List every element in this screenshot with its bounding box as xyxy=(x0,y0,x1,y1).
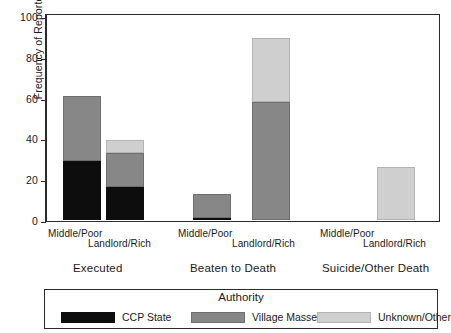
y-tick-label: 100 xyxy=(0,11,38,23)
legend: Authority CCP StateVillage Masses/PAUnkn… xyxy=(44,289,438,329)
legend-swatch-icon xyxy=(61,312,115,323)
bar-segment-light xyxy=(252,38,290,101)
bar xyxy=(252,38,290,220)
y-tick-label: 0 xyxy=(0,215,38,227)
legend-item: CCP State xyxy=(61,310,171,324)
group-label: Beaten to Death xyxy=(190,262,276,274)
y-tick-label: 40 xyxy=(0,133,38,145)
y-tick-label: 80 xyxy=(0,52,38,64)
bar xyxy=(377,167,415,220)
bar-segment-light xyxy=(377,167,415,220)
legend-item: Unknown/Other xyxy=(317,310,451,324)
bar-segment-mid xyxy=(252,102,290,220)
legend-swatch-icon xyxy=(191,312,245,323)
legend-swatch-icon xyxy=(317,312,371,323)
x-tick-label: Middle/Poor xyxy=(178,228,232,239)
legend-title: Authority xyxy=(45,291,437,303)
bar-segment-black xyxy=(106,187,144,220)
bar xyxy=(193,193,231,220)
legend-label: Unknown/Other xyxy=(378,311,451,323)
bars-container xyxy=(47,15,439,221)
legend-label: CCP State xyxy=(122,311,171,323)
bar xyxy=(63,96,101,220)
bar-segment-black xyxy=(63,161,101,220)
bar-segment-mid xyxy=(193,194,231,218)
bar-segment-mid xyxy=(106,153,144,188)
x-tick-label: Landlord/Rich xyxy=(88,238,151,249)
bar-segment-mid xyxy=(63,96,101,161)
y-tick-mark xyxy=(41,222,46,223)
x-tick-label: Landlord/Rich xyxy=(232,238,295,249)
group-label: Suicide/Other Death xyxy=(322,262,429,274)
y-tick-label: 20 xyxy=(0,174,38,186)
bar xyxy=(106,140,144,220)
bar-segment-light xyxy=(106,140,144,152)
x-tick-label: Landlord/Rich xyxy=(363,238,426,249)
bar-segment-black xyxy=(193,218,231,220)
y-axis-title-container: Frequency of Reported Deaths xyxy=(0,0,20,230)
y-tick-label: 60 xyxy=(0,93,38,105)
plot-area xyxy=(46,14,440,222)
group-label: Executed xyxy=(73,262,123,274)
